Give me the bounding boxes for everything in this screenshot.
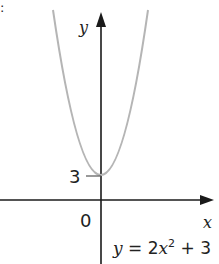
equation-exponent: 2	[168, 237, 175, 250]
equation-label: y = 2x2 + 3	[112, 237, 211, 258]
y-axis-arrow-icon	[96, 12, 106, 27]
x-axis-label: x	[203, 213, 212, 232]
x-axis-arrow-icon	[200, 195, 214, 205]
equation-x: x	[158, 238, 168, 258]
origin-label: 0	[80, 210, 91, 231]
equation-y: y	[112, 238, 123, 258]
equation-rest: + 3	[175, 238, 211, 258]
y-axis-label: y	[78, 18, 89, 37]
graph-canvas: : y x 3 0 y = 2x2 + 3	[0, 0, 219, 264]
corner-fragment: :	[0, 0, 4, 15]
equation-mid: = 2	[123, 238, 159, 258]
y-intercept-label: 3	[69, 166, 80, 187]
